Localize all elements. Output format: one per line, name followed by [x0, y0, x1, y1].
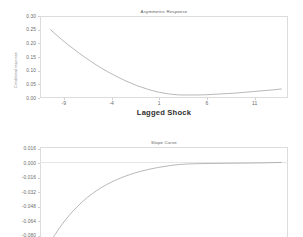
slope-curve-panel: Slope Curve 0.0160.000-0.016-0.032-0.048… — [0, 120, 303, 237]
figure-canvas: Asymmetric Response Conditional response… — [0, 0, 303, 237]
curve-slope — [0, 120, 303, 237]
x-axis-title-lagged-shock: Lagged Shock — [40, 108, 288, 117]
asymmetric-response-panel: Asymmetric Response Conditional response… — [0, 0, 303, 120]
curve-asymmetric-response — [0, 0, 303, 120]
